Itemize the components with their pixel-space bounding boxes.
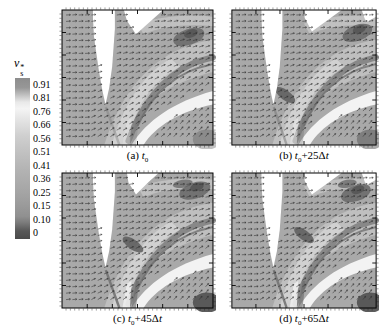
colorbar-tick-label: 0.76	[33, 107, 51, 117]
figure-vector-field-panels: v*s 0.910.810.760.660.560.510.410.360.25…	[0, 0, 387, 336]
panel-plot-c	[59, 170, 216, 312]
colorbar-tick-label: 0.41	[33, 161, 51, 171]
colorbar-tick-label: 0.81	[33, 93, 51, 103]
panel-caption-a: (a) t0	[59, 149, 216, 167]
panel-caption-d: (d) t0+65Δt	[229, 312, 379, 330]
panel-d: (d) t0+65Δt	[229, 170, 379, 330]
panel-plot-a	[59, 7, 216, 149]
panel-caption-c: (c) t0+45Δt	[59, 312, 216, 330]
colorbar-tick-label: 0.91	[33, 80, 51, 90]
colorbar-symbol-script: *s	[20, 65, 24, 77]
colorbar-tick-label: 0.51	[33, 147, 51, 157]
panel-b: (b) t0+25Δt	[229, 7, 379, 167]
panel-plot-d	[229, 170, 379, 312]
panel-caption-b: (b) t0+25Δt	[229, 149, 379, 167]
colorbar-tick-label: 0.36	[33, 174, 51, 184]
colorbar-tick-label: 0.15	[33, 201, 51, 211]
colorbar-symbol-sub: s	[20, 71, 23, 77]
panel-plot-b	[229, 7, 379, 149]
colorbar-tick-label: 0	[33, 228, 51, 238]
colorbar-title: v*s	[14, 56, 24, 77]
colorbar-tick-label: 0.10	[33, 215, 51, 225]
panel-a: (a) t0	[59, 7, 216, 167]
colorbar: v*s 0.910.810.760.660.560.510.410.360.25…	[0, 0, 56, 336]
colorbar-gradient	[15, 78, 30, 239]
colorbar-tick-label: 0.56	[33, 134, 51, 144]
panel-c: (c) t0+45Δt	[59, 170, 216, 330]
colorbar-symbol: v	[14, 56, 19, 70]
colorbar-tick-label: 0.66	[33, 120, 51, 130]
colorbar-tick-labels: 0.910.810.760.660.560.510.410.360.250.15…	[33, 80, 51, 238]
colorbar-tick-label: 0.25	[33, 188, 51, 198]
